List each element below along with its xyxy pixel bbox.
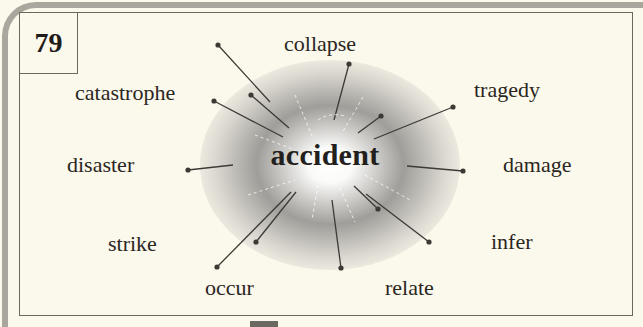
card-number: 79 <box>19 12 78 74</box>
word-occur: occur <box>205 275 254 301</box>
word-collapse: collapse <box>284 31 356 57</box>
bottom-tab-mark <box>250 321 278 327</box>
center-word: accident <box>255 138 395 172</box>
word-relate: relate <box>385 275 434 301</box>
word-damage: damage <box>503 152 571 178</box>
word-catastrophe: catastrophe <box>75 80 175 106</box>
word-disaster: disaster <box>67 152 134 178</box>
word-infer: infer <box>491 229 533 255</box>
word-tragedy: tragedy <box>474 77 540 103</box>
word-strike: strike <box>108 231 157 257</box>
